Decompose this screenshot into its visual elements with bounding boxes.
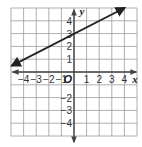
y-tick-label: −3 xyxy=(61,105,73,116)
x-tick-label: −2 xyxy=(43,74,55,85)
x-tick-label: 4 xyxy=(122,74,128,85)
x-tick-label: 2 xyxy=(96,74,102,85)
y-axis-label: y xyxy=(78,5,85,17)
y-tick-label: 1 xyxy=(66,54,72,65)
y-tick-label: 2 xyxy=(66,41,72,52)
x-tick-label: 1 xyxy=(84,74,90,85)
x-tick-label: −4 xyxy=(18,74,30,85)
y-tick-label: −2 xyxy=(61,93,73,104)
origin-label: O xyxy=(63,73,72,85)
y-tick-label: 4 xyxy=(66,16,72,27)
x-tick-label: −3 xyxy=(30,74,42,85)
x-tick-label: 3 xyxy=(109,74,115,85)
coordinate-plane: −4−3−2−112344321−2−3−4Oxy xyxy=(0,0,142,147)
y-tick-label: −4 xyxy=(61,118,73,129)
x-axis-label: x xyxy=(131,73,138,85)
